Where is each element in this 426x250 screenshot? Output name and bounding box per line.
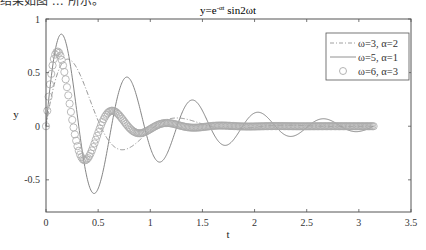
x-tick-label: 0.5 <box>92 217 105 228</box>
data-marker <box>69 116 76 123</box>
legend-label-series-1: ω=3, α=2 <box>358 38 398 49</box>
y-tick-label: 0 <box>35 121 40 132</box>
series-line-2 <box>46 34 374 193</box>
y-tick-label: -0.5 <box>24 174 40 185</box>
legend-label-series-3: ω=6, α=3 <box>358 66 398 77</box>
y-axis-label: y <box>13 108 19 120</box>
x-axis-label: t <box>226 228 229 240</box>
data-marker <box>65 92 72 99</box>
data-marker <box>63 84 70 91</box>
x-tick-label: 3 <box>356 217 361 228</box>
legend: ω=3, α=2 ω=5, α=1 ω=6, α=3 <box>326 33 409 80</box>
y-tick-label: 0.5 <box>28 67 41 78</box>
chart: 00.511.522.533.5-0.500.51 y=e-αt sin2ωt … <box>0 0 426 250</box>
data-marker <box>66 100 73 107</box>
x-tick-label: 0 <box>44 217 49 228</box>
data-marker <box>67 108 74 115</box>
chart-title: y=e-αt sin2ωt <box>200 4 256 16</box>
x-tick-label: 2 <box>252 217 257 228</box>
x-tick-label: 2.5 <box>300 217 313 228</box>
data-marker <box>70 124 77 131</box>
data-marker <box>61 68 68 75</box>
x-tick-label: 1 <box>148 217 153 228</box>
x-tick-label: 1.5 <box>196 217 209 228</box>
y-tick-label: 1 <box>35 14 40 25</box>
data-marker <box>62 76 69 83</box>
x-tick-label: 3.5 <box>405 217 418 228</box>
legend-label-series-2: ω=5, α=1 <box>358 52 398 63</box>
